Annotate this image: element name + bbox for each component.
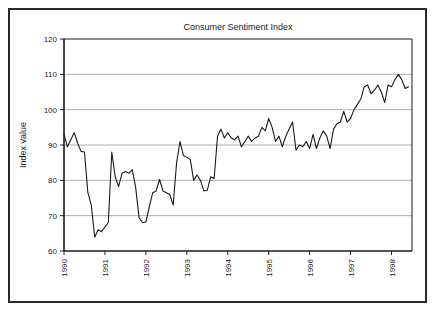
x-tick-group: 199019911992199319941995199619971998 xyxy=(60,251,397,277)
y-tick-label: 90 xyxy=(48,141,57,150)
x-tick-label: 1996 xyxy=(306,258,315,276)
y-tick-label: 100 xyxy=(44,106,58,115)
y-tick-label: 80 xyxy=(48,176,57,185)
x-tick-label: 1997 xyxy=(347,258,356,276)
chart-outer-frame: Consumer Sentiment Index 607080901001101… xyxy=(8,8,427,303)
x-tick-label: 1992 xyxy=(142,258,151,276)
x-tick-label: 1991 xyxy=(101,258,110,276)
consumer-sentiment-chart: Consumer Sentiment Index 607080901001101… xyxy=(10,10,425,301)
y-tick-label: 120 xyxy=(44,35,58,44)
x-tick-label: 1993 xyxy=(183,258,192,276)
y-tick-group: 60708090100110120 xyxy=(44,35,64,256)
y-tick-label: 110 xyxy=(44,70,57,79)
figure-container: Consumer Sentiment Index 607080901001101… xyxy=(0,0,435,315)
y-tick-label: 60 xyxy=(48,247,57,256)
chart-title: Consumer Sentiment Index xyxy=(183,22,293,32)
y-axis-title: Index value xyxy=(18,122,28,168)
y-tick-label: 70 xyxy=(48,212,57,221)
x-tick-label: 1998 xyxy=(388,258,397,276)
x-tick-label: 1990 xyxy=(60,258,69,276)
x-tick-label: 1995 xyxy=(265,258,274,276)
x-tick-label: 1994 xyxy=(224,258,233,276)
